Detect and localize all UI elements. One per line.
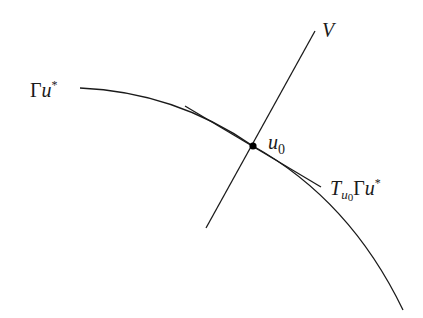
gamma-symbol: Γ (30, 79, 42, 101)
v-text: V (322, 19, 334, 41)
gamma-u-star-label: Γu* (30, 80, 58, 100)
u-variable: u (268, 131, 278, 153)
gamma-u-star-curve (80, 88, 403, 310)
star-superscript: * (375, 176, 381, 190)
star-superscript: * (52, 78, 58, 92)
t-symbol: T (330, 177, 341, 199)
diagram-canvas (0, 0, 423, 318)
zero-subscript: 0 (278, 142, 285, 157)
u0-point (249, 142, 256, 149)
v-label: V (322, 20, 334, 40)
gamma-symbol: Γ (353, 177, 365, 199)
v-line (206, 31, 315, 228)
u-variable: u (365, 177, 375, 199)
u0-subscript: u0 (341, 187, 353, 202)
tangent-space-label: Tu0Γu* (330, 178, 381, 198)
u0-label: u0 (268, 132, 285, 152)
u-variable: u (42, 79, 52, 101)
